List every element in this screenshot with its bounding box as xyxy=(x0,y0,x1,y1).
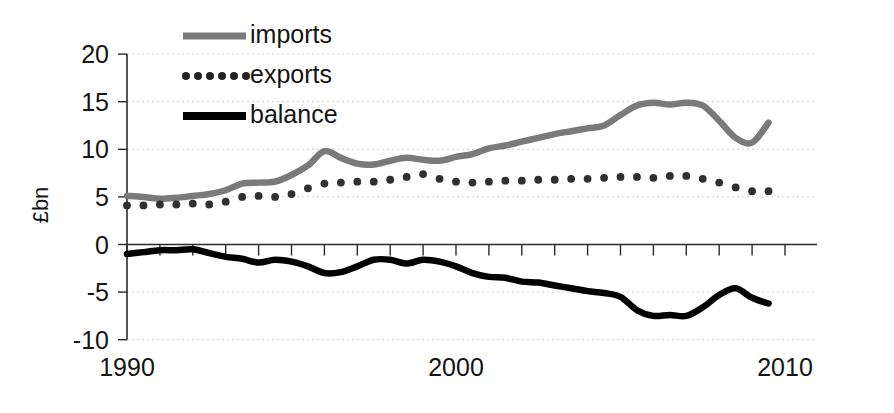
exports-point xyxy=(370,178,378,186)
exports-point xyxy=(715,179,723,187)
exports-point xyxy=(551,176,559,184)
legend-marker-exports xyxy=(218,72,226,80)
exports-point xyxy=(633,173,641,181)
exports-point xyxy=(156,201,164,209)
legend-label-balance: balance xyxy=(250,100,338,128)
exports-point xyxy=(205,201,213,209)
y-tick-label--10: -10 xyxy=(73,326,109,354)
data-series xyxy=(123,103,772,317)
exports-point xyxy=(321,180,329,188)
exports-point xyxy=(436,175,444,183)
exports-point xyxy=(403,173,411,181)
y-tick-label-15: 15 xyxy=(81,88,109,116)
exports-point xyxy=(501,177,509,185)
exports-point xyxy=(222,198,230,206)
legend-marker-exports xyxy=(242,72,250,80)
exports-point xyxy=(518,177,526,185)
exports-point xyxy=(452,178,460,186)
exports-point xyxy=(600,174,608,182)
exports-point xyxy=(699,175,707,183)
line-chart-svg: 20151050-5-10 199020002010 importsexport… xyxy=(0,0,894,413)
legend-label-exports: exports xyxy=(250,60,332,88)
exports-point xyxy=(469,179,477,187)
exports-point xyxy=(732,183,740,191)
legend-marker-exports xyxy=(182,72,190,80)
exports-point xyxy=(238,193,246,201)
exports-point xyxy=(419,170,427,178)
exports-point xyxy=(534,176,542,184)
y-axis: 20151050-5-10 xyxy=(73,40,127,354)
exports-point xyxy=(353,178,361,186)
exports-point xyxy=(682,172,690,180)
exports-point xyxy=(567,175,575,183)
y-tick-label-5: 5 xyxy=(95,183,109,211)
exports-point xyxy=(304,184,312,192)
exports-point xyxy=(666,172,674,180)
exports-point xyxy=(172,201,180,209)
y-tick-label--5: -5 xyxy=(87,278,109,306)
exports-point xyxy=(123,202,131,210)
y-axis-title: £bn xyxy=(28,187,53,224)
exports-point xyxy=(650,174,658,182)
exports-point xyxy=(485,178,493,186)
y-tick-label-10: 10 xyxy=(81,135,109,163)
exports-point xyxy=(386,176,394,184)
exports-point xyxy=(255,192,263,200)
legend-marker-exports xyxy=(194,72,202,80)
chart-legend: importsexportsbalance xyxy=(182,20,338,128)
exports-point xyxy=(288,190,296,198)
x-tick-label-2010: 2010 xyxy=(757,353,813,381)
exports-point xyxy=(765,187,773,195)
x-tick-label-2000: 2000 xyxy=(428,353,484,381)
exports-point xyxy=(617,173,625,181)
legend-marker-exports xyxy=(206,72,214,80)
exports-point xyxy=(189,200,197,208)
exports-point xyxy=(337,179,345,187)
exports-point xyxy=(584,175,592,183)
exports-point xyxy=(140,202,148,210)
x-tick-label-1990: 1990 xyxy=(99,353,155,381)
legend-marker-exports xyxy=(230,72,238,80)
series-line-balance xyxy=(127,249,769,316)
exports-point xyxy=(271,193,279,201)
chart-container: 20151050-5-10 199020002010 importsexport… xyxy=(0,0,894,413)
exports-point xyxy=(748,187,756,195)
y-tick-label-20: 20 xyxy=(81,40,109,68)
y-tick-label-0: 0 xyxy=(95,231,109,259)
legend-label-imports: imports xyxy=(250,20,332,48)
